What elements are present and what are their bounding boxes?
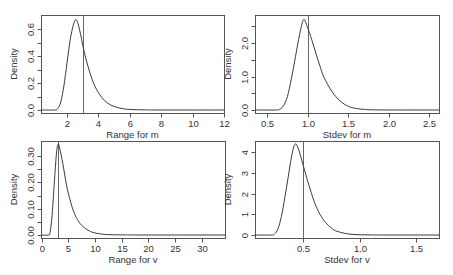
x-tick-label: 10 <box>90 243 101 254</box>
x-tick-label: 1.0 <box>354 243 367 254</box>
y-tick-label: 0.10 <box>25 200 36 219</box>
y-tick-label: 0 <box>239 233 250 238</box>
x-axis-title: Range for v <box>108 254 157 265</box>
panel-range-for-v: 0510152025300.000.100.200.30Range for vD… <box>8 142 226 266</box>
y-tick-label: 0.2 <box>25 77 36 90</box>
x-tick-label: 1.0 <box>302 118 315 129</box>
x-tick-label: 8 <box>159 118 164 129</box>
density-curve <box>255 19 439 110</box>
panel-stdev-for-v: 0.51.01.501234Stdev for vDensity <box>222 142 440 266</box>
y-axis-title: Density <box>8 173 19 205</box>
plot-frame <box>256 16 440 114</box>
y-tick-label: 1 <box>239 212 250 217</box>
x-tick-label: 12 <box>219 118 230 129</box>
x-tick-label: 30 <box>197 243 208 254</box>
x-tick-label: 2 <box>65 118 70 129</box>
x-tick-label: 5 <box>66 243 71 254</box>
x-tick-label: 0.5 <box>261 118 274 129</box>
y-axis-title: Density <box>222 48 233 80</box>
y-tick-label: 0.00 <box>25 226 36 245</box>
y-tick-label: 0.0 <box>25 104 36 117</box>
x-tick-label: 6 <box>128 118 133 129</box>
y-tick-label: 4 <box>239 150 250 155</box>
x-tick-label: 0 <box>40 243 45 254</box>
x-axis-title: Range for m <box>106 129 158 140</box>
x-tick-label: 2.5 <box>423 118 436 129</box>
x-axis-title: Stdev for v <box>324 254 370 265</box>
x-axis-title: Stdev for m <box>323 129 372 140</box>
x-tick-label: 4 <box>96 118 101 129</box>
plot-frame <box>42 142 226 239</box>
y-axis-title: Density <box>8 48 19 80</box>
x-tick-label: 15 <box>117 243 128 254</box>
plot-frame <box>256 142 440 239</box>
x-tick-label: 20 <box>143 243 154 254</box>
y-tick-label: 0.30 <box>25 147 36 166</box>
x-tick-label: 10 <box>188 118 199 129</box>
x-tick-label: 1.5 <box>342 118 355 129</box>
figure-canvas: 246810120.00.20.40.6Range for mDensity 0… <box>0 0 453 275</box>
y-tick-label: 0.0 <box>239 104 250 117</box>
y-tick-label: 2.0 <box>239 37 250 50</box>
y-tick-label: 2 <box>239 192 250 197</box>
y-axis-title: Density <box>222 173 233 205</box>
x-tick-label: 2.0 <box>383 118 396 129</box>
x-tick-label: 1.5 <box>410 243 423 254</box>
y-tick-label: 0.4 <box>25 50 36 63</box>
panel-stdev-for-m: 0.51.01.52.02.50.01.02.0Stdev for mDensi… <box>222 16 440 141</box>
x-tick-label: 25 <box>170 243 181 254</box>
density-curve <box>41 20 224 111</box>
y-tick-label: 1.0 <box>239 71 250 84</box>
panel-range-for-m: 246810120.00.20.40.6Range for mDensity <box>8 16 230 141</box>
density-plot-grid: 246810120.00.20.40.6Range for mDensity 0… <box>0 0 453 275</box>
x-tick-label: 0.5 <box>297 243 310 254</box>
density-curve <box>41 144 225 235</box>
plot-frame <box>42 16 225 114</box>
y-tick-label: 0.6 <box>25 23 36 36</box>
y-tick-label: 3 <box>239 171 250 176</box>
density-curve <box>255 144 439 235</box>
y-tick-label: 0.20 <box>25 173 36 192</box>
